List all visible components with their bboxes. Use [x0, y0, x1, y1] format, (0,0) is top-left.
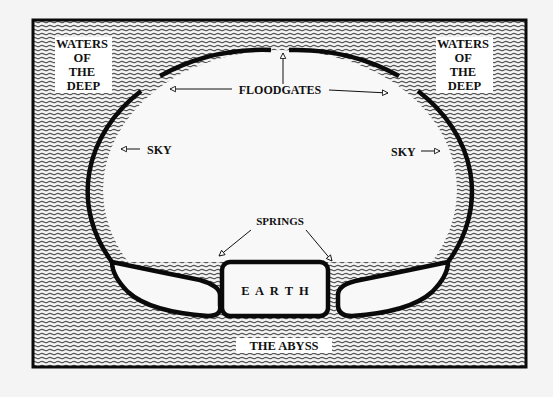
earth-label: E A R T H: [241, 284, 309, 298]
sky-right-label: SKY: [391, 145, 416, 159]
abyss-label: THE ABYSS: [249, 339, 318, 353]
sky-left-label: SKY: [147, 143, 172, 157]
floodgates-label: FLOODGATES: [239, 83, 322, 97]
cosmology-diagram: WATERS OF THE DEEP WATERS OF THE DEEP FL…: [0, 0, 553, 397]
springs-label: SPRINGS: [256, 215, 304, 227]
